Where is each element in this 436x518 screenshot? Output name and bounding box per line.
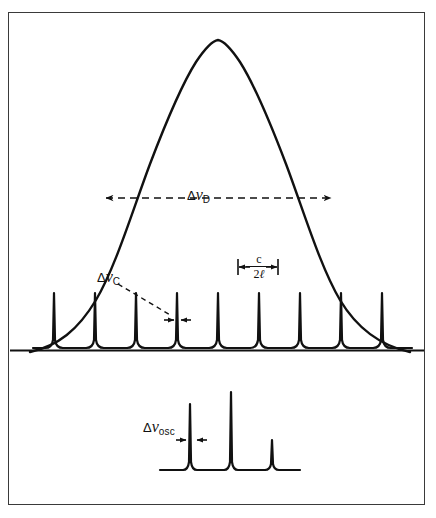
cavity-linewidth-arrow — [118, 284, 191, 320]
mode-spike — [209, 293, 250, 348]
oscillating-mode-spikes — [160, 392, 300, 470]
subscript-c: C — [113, 276, 120, 287]
osc-width-label: Δνosc — [143, 419, 175, 437]
delta-symbol: Δ — [97, 270, 106, 285]
laser-mode-figure-canvas — [0, 0, 436, 518]
osc-spike — [265, 440, 300, 470]
mode-spike — [250, 293, 291, 348]
ell-symbol: ℓ — [260, 267, 265, 281]
nu-symbol: ν — [106, 268, 113, 285]
doppler-gaussian-gain-curve — [30, 40, 410, 352]
osc-spike — [183, 404, 224, 470]
fraction-numerator: c — [246, 253, 272, 265]
subscript-osc: osc — [159, 426, 175, 437]
mode-spike — [332, 293, 373, 348]
nu-symbol: ν — [152, 418, 159, 435]
delta-symbol: Δ — [187, 188, 196, 203]
mode-spike — [127, 293, 168, 348]
subscript-d: D — [203, 194, 210, 205]
figure-root: ΔνD ΔνC Δνosc c 2ℓ — [0, 0, 436, 518]
fraction-denominator: 2ℓ — [246, 268, 272, 280]
osc-spike — [224, 392, 265, 470]
mode-spike — [291, 293, 332, 348]
mode-spacing-label: c 2ℓ — [246, 253, 272, 280]
doppler-width-label: ΔνD — [187, 187, 210, 205]
cavity-width-label: ΔνC — [97, 269, 120, 287]
delta-symbol: Δ — [143, 420, 152, 435]
nu-symbol: ν — [196, 186, 203, 203]
mode-spike — [86, 293, 127, 348]
